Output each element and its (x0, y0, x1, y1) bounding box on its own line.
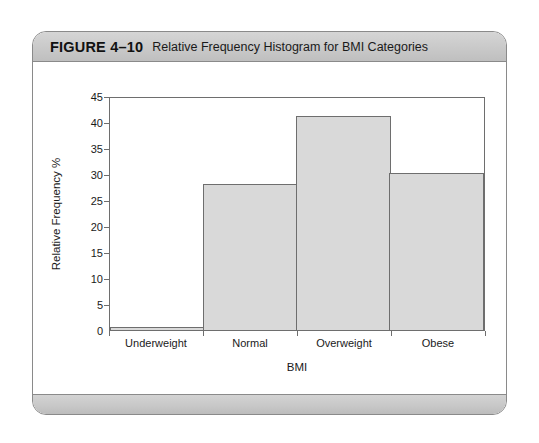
x-tick-label: Normal (203, 337, 297, 349)
figure-title-bar: FIGURE 4–10 Relative Frequency Histogram… (33, 32, 506, 62)
x-tick-label: Underweight (109, 337, 203, 349)
x-axis-tick-labels: UnderweightNormalOverweightObese (109, 337, 485, 349)
x-tick-label: Overweight (297, 337, 391, 349)
figure-card: FIGURE 4–10 Relative Frequency Histogram… (32, 31, 507, 415)
plot-area (109, 97, 485, 331)
x-axis-title: BMI (109, 361, 485, 373)
histogram-chart: Relative Frequency % 051015202530354045 … (33, 62, 507, 395)
y-tick-label: 25 (77, 195, 103, 207)
y-tick-label: 0 (77, 325, 103, 337)
bar-normal (203, 184, 298, 330)
y-axis-title-label: Relative Frequency % (50, 158, 62, 271)
x-tick-mark (485, 331, 486, 336)
y-tick-mark (104, 175, 109, 176)
x-tick-mark (297, 331, 298, 336)
x-tick-mark (109, 331, 110, 336)
figure-caption: Relative Frequency Histogram for BMI Cat… (152, 40, 428, 54)
y-tick-label: 15 (77, 247, 103, 259)
y-tick-label: 5 (77, 299, 103, 311)
y-tick-mark (104, 149, 109, 150)
y-tick-mark (104, 227, 109, 228)
y-tick-mark (104, 123, 109, 124)
x-tick-mark (391, 331, 392, 336)
y-tick-label: 40 (77, 117, 103, 129)
bar-overweight (296, 116, 391, 330)
bar-series (110, 98, 484, 330)
bar-underweight (110, 327, 205, 330)
y-tick-mark (104, 97, 109, 98)
y-tick-label: 45 (77, 91, 103, 103)
y-axis-tick-labels: 051015202530354045 (77, 97, 103, 331)
y-tick-label: 10 (77, 273, 103, 285)
y-tick-mark (104, 305, 109, 306)
y-axis-title: Relative Frequency % (49, 97, 63, 331)
figure-screenshot: FIGURE 4–10 Relative Frequency Histogram… (0, 0, 539, 443)
y-tick-label: 35 (77, 143, 103, 155)
figure-footer-bar (33, 394, 506, 414)
y-tick-mark (104, 279, 109, 280)
y-tick-mark (104, 253, 109, 254)
x-tick-label: Obese (391, 337, 485, 349)
x-tick-mark (203, 331, 204, 336)
y-tick-label: 20 (77, 221, 103, 233)
bar-obese (389, 173, 484, 330)
y-tick-mark (104, 201, 109, 202)
y-tick-label: 30 (77, 169, 103, 181)
figure-number: FIGURE 4–10 (50, 39, 143, 55)
